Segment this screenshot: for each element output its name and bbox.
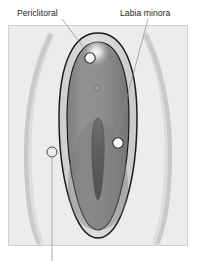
anatomy-figure: Periclitoral Labia minora: [0, 0, 197, 261]
label-labia-minora: Labia minora: [120, 8, 170, 18]
marker-labia-minora[interactable]: [113, 138, 123, 148]
figure-canvas: Periclitoral Labia minora: [0, 0, 197, 261]
urethral-opening: [94, 85, 99, 91]
marker-periclitoral[interactable]: [85, 53, 95, 63]
label-periclitoral: Periclitoral: [17, 8, 58, 18]
